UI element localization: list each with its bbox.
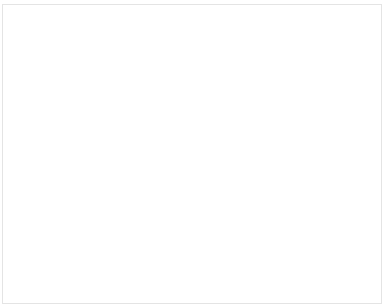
plot-area	[40, 24, 332, 266]
